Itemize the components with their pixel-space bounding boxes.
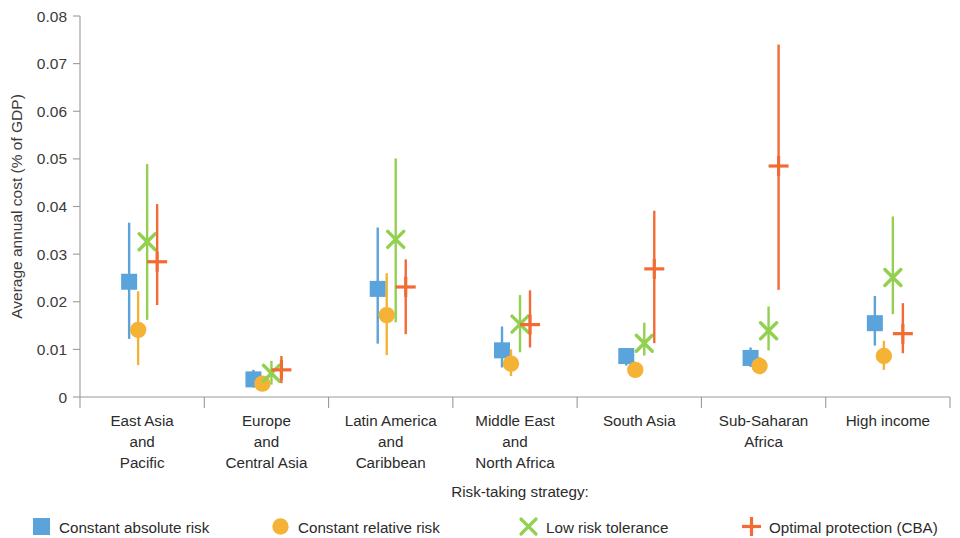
x-axis-category-label: Pacific [120, 454, 165, 471]
x-axis-category-label: Africa [744, 433, 783, 450]
legend-item-label: Optimal protection (CBA) [769, 519, 938, 536]
circle-marker-icon [272, 518, 288, 534]
circle-marker-icon [130, 322, 146, 338]
y-axis-tick-label: 0.08 [37, 8, 67, 25]
plus-marker-icon [769, 156, 789, 176]
circle-marker-icon [379, 307, 395, 323]
plus-marker-icon [520, 315, 540, 335]
y-axis-tick-label: 0 [58, 389, 67, 406]
legend-item-label: Low risk tolerance [546, 519, 668, 536]
x-marker-icon [521, 519, 536, 534]
series-low-risk-tolerance [139, 158, 901, 384]
x-axis-category-label: and [129, 433, 154, 450]
legend-item[interactable]: Optimal protection (CBA) [742, 517, 938, 536]
x-axis-category-label: High income [846, 412, 930, 429]
y-axis-tick-label: 0.02 [37, 293, 67, 310]
series-optimal-protection-cba [147, 45, 913, 384]
chart-legend: Risk-taking strategy:Constant absolute r… [33, 483, 938, 536]
legend-item[interactable]: Constant relative risk [272, 518, 440, 535]
x-axis-category-label: Latin America [345, 412, 438, 429]
y-axis-tick-label: 0.01 [37, 341, 67, 358]
x-axis-category-label: Central Asia [225, 454, 307, 471]
square-marker-icon [121, 274, 137, 290]
x-axis-category-label: East Asia [110, 412, 174, 429]
plus-marker-icon [893, 324, 913, 344]
square-marker-icon [494, 342, 510, 358]
x-axis-category-label: Europe [242, 412, 291, 429]
square-marker-icon [370, 281, 386, 297]
x-axis-category-label: Caribbean [356, 454, 426, 471]
square-marker-icon [618, 348, 634, 364]
legend-item[interactable]: Low risk tolerance [521, 519, 668, 536]
legend-item-label: Constant relative risk [298, 519, 440, 536]
y-axis-title: Average annual cost (% of GDP) [8, 94, 25, 319]
square-marker-icon [33, 518, 50, 535]
square-marker-icon [867, 315, 883, 331]
x-axis-category-label: and [502, 433, 527, 450]
x-axis-category-label: Sub-Saharan [719, 412, 809, 429]
circle-marker-icon [627, 362, 643, 378]
legend-item-label: Constant absolute risk [59, 519, 210, 536]
x-axis-category-label: and [378, 433, 403, 450]
scatter-error-bar-chart: 00.010.020.030.040.050.060.070.08 East A… [0, 0, 960, 538]
y-axis: 00.010.020.030.040.050.060.070.08 [37, 8, 80, 406]
x-axis-category-label: South Asia [603, 412, 676, 429]
y-axis-tick-label: 0.03 [37, 246, 67, 263]
legend-title: Risk-taking strategy: [451, 483, 589, 500]
x-axis-category-label: North Africa [475, 454, 555, 471]
plus-marker-icon [396, 277, 416, 297]
circle-marker-icon [876, 348, 892, 364]
y-axis-tick-label: 0.04 [37, 198, 68, 215]
plus-marker-icon [644, 259, 664, 279]
data-series-layer [121, 45, 913, 392]
chart-container: 00.010.020.030.040.050.060.070.08 East A… [0, 0, 960, 538]
legend-item[interactable]: Constant absolute risk [33, 518, 210, 536]
circle-marker-icon [751, 358, 767, 374]
y-axis-tick-label: 0.07 [37, 55, 67, 72]
x-axis-category-label: Middle East [475, 412, 555, 429]
y-axis-tick-label: 0.06 [37, 103, 67, 120]
x-axis-category-label: and [254, 433, 279, 450]
y-axis-tick-label: 0.05 [37, 150, 67, 167]
plus-marker-icon [147, 252, 167, 272]
circle-marker-icon [503, 355, 519, 371]
x-axis [80, 397, 950, 408]
plus-marker-icon [742, 517, 761, 536]
series-constant-absolute-risk [121, 223, 883, 388]
x-axis-category-labels: East AsiaandPacificEuropeandCentral Asia… [110, 412, 930, 471]
